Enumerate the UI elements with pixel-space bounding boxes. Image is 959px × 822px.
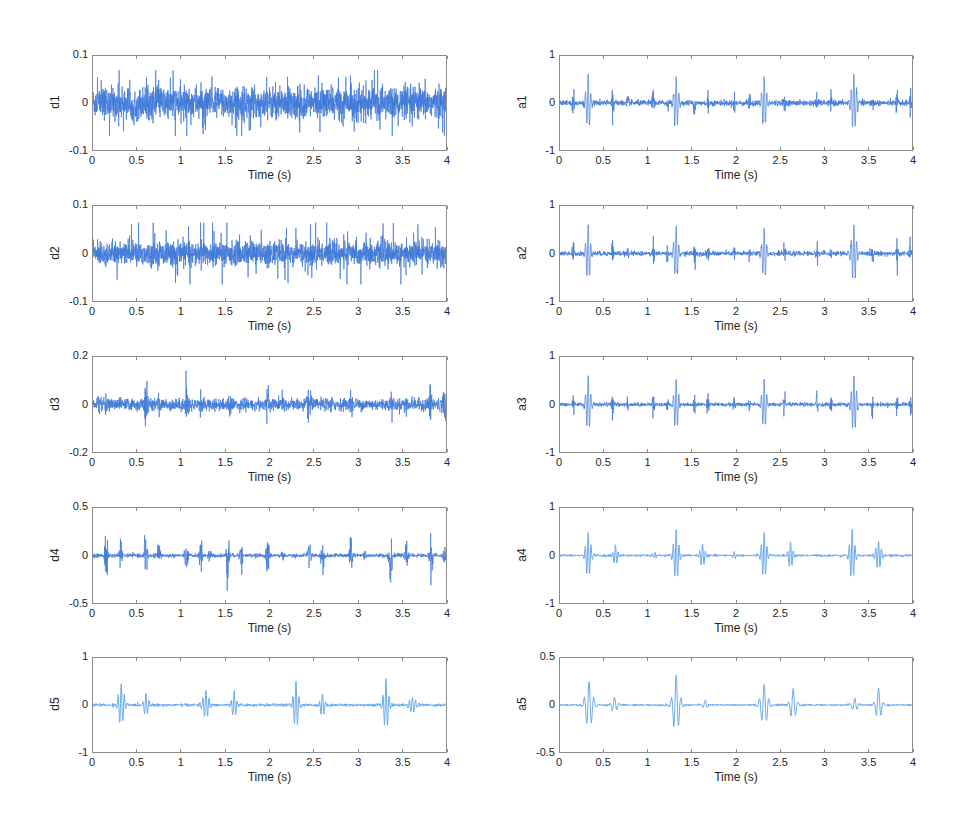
x-tick-mark — [447, 56, 448, 59]
x-tick-label: 4 — [898, 154, 928, 166]
x-tick-label: 1 — [633, 607, 663, 619]
plot-area — [92, 657, 447, 753]
x-tick-mark — [736, 449, 737, 452]
x-tick-mark — [603, 357, 604, 360]
x-tick-mark — [358, 449, 359, 452]
x-tick-mark — [225, 508, 226, 511]
y-axis-label: a3 — [515, 389, 529, 419]
x-tick-mark — [559, 357, 560, 360]
x-tick-mark — [559, 298, 560, 301]
x-tick-label: 1 — [633, 756, 663, 768]
x-tick-mark — [402, 449, 403, 452]
x-tick-mark — [225, 449, 226, 452]
x-tick-mark — [136, 206, 137, 209]
x-tick-label: 2.5 — [299, 456, 329, 468]
x-tick-mark — [603, 600, 604, 603]
x-tick-label: 3 — [343, 154, 373, 166]
x-axis-label: Time (s) — [676, 319, 796, 333]
x-tick-mark — [780, 56, 781, 59]
x-tick-mark — [225, 749, 226, 752]
x-tick-mark — [603, 206, 604, 209]
x-tick-mark — [868, 600, 869, 603]
x-tick-mark — [913, 206, 914, 209]
x-tick-mark — [559, 147, 560, 150]
x-tick-mark — [402, 206, 403, 209]
x-tick-mark — [136, 749, 137, 752]
x-tick-label: 2 — [721, 756, 751, 768]
x-tick-mark — [647, 508, 648, 511]
x-tick-mark — [313, 749, 314, 752]
x-tick-mark — [647, 449, 648, 452]
x-tick-mark — [868, 449, 869, 452]
x-tick-label: 1.5 — [210, 154, 240, 166]
x-tick-label: 1 — [166, 456, 196, 468]
y-tick-label: -1 — [515, 295, 555, 307]
x-tick-label: 2 — [721, 456, 751, 468]
signal-trace — [560, 357, 912, 452]
x-tick-mark — [180, 749, 181, 752]
x-tick-mark — [313, 56, 314, 59]
x-tick-label: 4 — [432, 305, 462, 317]
x-tick-mark — [358, 206, 359, 209]
x-tick-mark — [691, 298, 692, 301]
x-tick-mark — [136, 298, 137, 301]
x-tick-mark — [691, 600, 692, 603]
x-tick-label: 3.5 — [854, 756, 884, 768]
x-tick-mark — [736, 658, 737, 661]
x-tick-label: 4 — [432, 607, 462, 619]
x-tick-mark — [447, 749, 448, 752]
x-tick-mark — [269, 600, 270, 603]
x-tick-label: 3.5 — [388, 456, 418, 468]
x-tick-mark — [913, 600, 914, 603]
x-tick-label: 4 — [898, 305, 928, 317]
x-tick-mark — [559, 56, 560, 59]
x-tick-label: 3 — [343, 756, 373, 768]
x-tick-label: 3.5 — [388, 305, 418, 317]
x-tick-mark — [313, 658, 314, 661]
x-tick-mark — [92, 56, 93, 59]
x-tick-mark — [691, 147, 692, 150]
x-tick-mark — [358, 508, 359, 511]
x-tick-label: 0.5 — [588, 154, 618, 166]
x-tick-label: 3 — [343, 607, 373, 619]
y-tick-label: 1 — [48, 650, 88, 662]
x-tick-label: 1 — [166, 607, 196, 619]
x-tick-mark — [92, 658, 93, 661]
x-tick-mark — [180, 147, 181, 150]
x-tick-label: 2.5 — [299, 607, 329, 619]
x-tick-mark — [647, 147, 648, 150]
y-axis-label: a1 — [515, 87, 529, 117]
x-tick-mark — [136, 449, 137, 452]
x-tick-mark — [225, 147, 226, 150]
signal-trace — [93, 206, 446, 301]
x-tick-label: 3 — [810, 756, 840, 768]
y-tick-label: 0.5 — [515, 650, 555, 662]
x-tick-label: 2.5 — [765, 756, 795, 768]
x-tick-label: 3.5 — [854, 456, 884, 468]
x-tick-mark — [780, 658, 781, 661]
plot-area — [92, 205, 447, 302]
x-tick-mark — [225, 206, 226, 209]
x-tick-mark — [559, 508, 560, 511]
x-tick-mark — [92, 357, 93, 360]
x-tick-mark — [402, 658, 403, 661]
x-tick-mark — [358, 658, 359, 661]
x-tick-label: 2.5 — [765, 305, 795, 317]
x-axis-label: Time (s) — [676, 770, 796, 784]
x-tick-mark — [691, 508, 692, 511]
x-tick-mark — [780, 508, 781, 511]
x-tick-mark — [736, 147, 737, 150]
x-tick-label: 3.5 — [854, 607, 884, 619]
x-tick-mark — [269, 658, 270, 661]
x-tick-mark — [92, 449, 93, 452]
x-tick-mark — [225, 600, 226, 603]
x-tick-mark — [447, 449, 448, 452]
x-tick-label: 0.5 — [588, 305, 618, 317]
y-tick-label: 1 — [515, 198, 555, 210]
x-tick-mark — [358, 298, 359, 301]
x-tick-label: 3 — [343, 305, 373, 317]
x-tick-label: 2.5 — [299, 756, 329, 768]
x-tick-mark — [313, 600, 314, 603]
x-tick-mark — [447, 508, 448, 511]
x-tick-mark — [647, 357, 648, 360]
